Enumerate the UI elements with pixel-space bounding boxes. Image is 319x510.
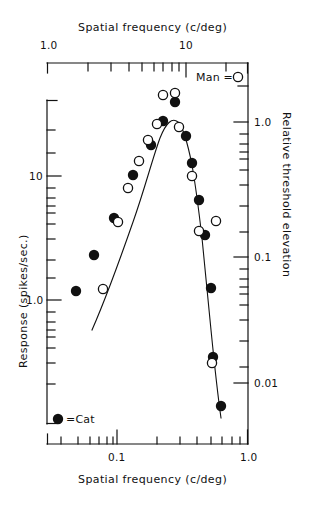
plot-canvas [0,0,319,510]
man-point [174,122,183,131]
man-point [152,119,161,128]
man-point [170,88,179,97]
figure-container: Spatial frequency (c/deg) 1.0 10 0.1 1.0… [0,0,319,510]
bottom-axis-ticks [48,430,248,444]
cat-point [89,250,99,260]
cat-point [194,195,204,205]
man-point [207,358,216,367]
man-point [211,216,220,225]
cat-point [181,131,191,141]
man-point [98,284,107,293]
top-axis-ticks [48,63,248,77]
cat-point [128,170,138,180]
filled-circle-marker [53,414,63,424]
man-point [134,156,143,165]
fitted-tuning-curve [92,120,221,418]
cat-point [206,283,216,293]
man-point [187,171,196,180]
open-circle-marker [233,72,242,81]
right-axis-ticks [234,86,248,383]
man-data-points [98,88,220,367]
man-point [143,135,152,144]
man-point [123,183,132,192]
cat-point [71,286,81,296]
man-point [113,217,122,226]
cat-point [216,401,226,411]
man-point [194,226,203,235]
left-axis-ticks [47,101,61,424]
cat-point [170,97,180,107]
man-point [158,90,167,99]
cat-point [187,158,197,168]
